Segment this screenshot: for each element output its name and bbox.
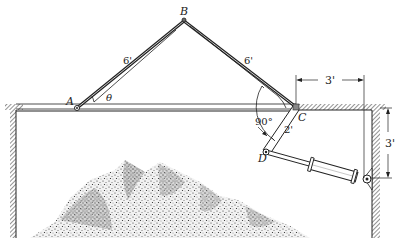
label-horizontal-dim: 3' [325, 74, 335, 87]
mechanism-diagram: A B C D 6' 6' 2' 3' 3' θ 90° [0, 0, 401, 238]
top-beam [16, 104, 296, 111]
label-vertical-dim: 3' [385, 137, 395, 150]
bulk-pile [30, 160, 310, 238]
label-point-d: D [257, 152, 267, 165]
left-wall [5, 104, 23, 238]
label-ab-length: 6' [123, 55, 132, 66]
label-point-a: A [65, 95, 74, 108]
pin-a [75, 106, 80, 111]
label-right-angle: 90° [255, 116, 273, 127]
label-theta: θ [106, 92, 112, 103]
hydraulic-cylinder [266, 146, 358, 184]
right-beam [297, 104, 386, 110]
label-cd-length: 2' [284, 124, 293, 135]
bar-bc [184, 21, 296, 108]
pin-b [182, 18, 186, 22]
label-bc-length: 6' [244, 55, 253, 66]
label-point-c: C [298, 111, 307, 124]
right-wall [372, 110, 380, 238]
pin-c [293, 104, 299, 110]
label-point-b: B [179, 5, 188, 18]
crank-cd [263, 106, 299, 154]
